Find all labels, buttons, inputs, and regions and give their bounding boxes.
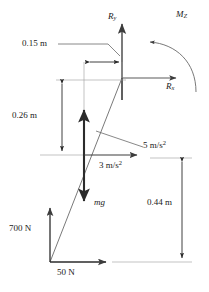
- free-body-diagram: Ry Rx MZ 0.15 m 0.26 m 0.44 m 5 m/s2 3 m…: [0, 0, 209, 292]
- force-700N-label: 700 N: [9, 224, 31, 233]
- accel-3-label: 3 m/s2: [99, 160, 122, 170]
- accel-5-label: 5 m/s2: [143, 140, 166, 150]
- dim-0-26-m-label: 0.26 m: [12, 111, 37, 120]
- weight-label: mg: [94, 198, 105, 207]
- slanted-member: [50, 78, 122, 262]
- moment-z-label: MZ: [176, 10, 187, 20]
- dim-0-15-m-leader: [58, 44, 120, 56]
- reaction-x-label: Rx: [166, 82, 174, 92]
- dim-0-44-m-label: 0.44 m: [147, 198, 172, 207]
- dim-0-15-m-label: 0.15 m: [22, 39, 47, 48]
- accel-5-leader: [96, 131, 143, 147]
- reaction-y-label: Ry: [108, 12, 116, 22]
- force-50N-label: 50 N: [57, 268, 75, 277]
